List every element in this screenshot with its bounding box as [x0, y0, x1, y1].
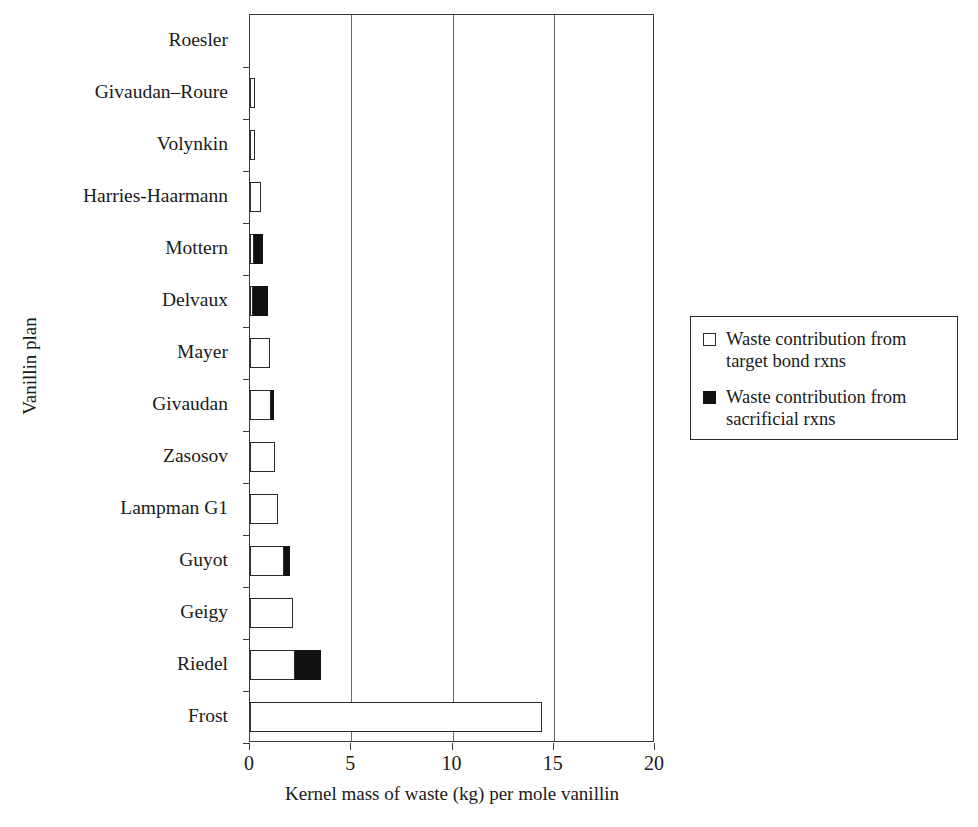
x-axis-tick-10 [452, 743, 453, 750]
gridline-x-15 [554, 15, 555, 741]
bar-segment-sacrificial [254, 234, 263, 264]
x-axis-tick-label-10: 10 [442, 752, 462, 775]
bar-segment-target-bond [250, 494, 278, 524]
y-axis-tick [243, 691, 250, 692]
y-axis-label-harries-haarmann: Harries-Haarmann [83, 186, 228, 206]
bar-segment-target-bond [250, 78, 255, 108]
x-axis-tick-label-0: 0 [244, 752, 254, 775]
y-axis-label-volynkin: Volynkin [157, 134, 228, 154]
y-axis-tick [243, 67, 250, 68]
x-axis-tick-label-15: 15 [543, 752, 563, 775]
y-axis-tick [243, 587, 250, 588]
y-axis-tick [243, 639, 250, 640]
bar-row [250, 182, 261, 212]
y-axis-label-zasosov: Zasosov [163, 446, 228, 466]
bar-segment-target-bond [250, 182, 261, 212]
plot-area [249, 14, 654, 742]
legend-swatch-filled-square-icon [703, 391, 716, 404]
x-axis-tick-20 [654, 743, 655, 750]
bar-segment-target-bond [250, 650, 295, 680]
chart-legend: Waste contribution from target bond rxns… [690, 316, 958, 440]
x-axis-tick-15 [553, 743, 554, 750]
legend-swatch-open-square-icon [703, 333, 716, 346]
bar-row [250, 442, 275, 472]
bar-segment-target-bond [250, 390, 271, 420]
gridline-x-5 [351, 15, 352, 741]
y-axis-label-frost: Frost [188, 706, 228, 726]
y-axis-tick [243, 379, 250, 380]
legend-item: Waste contribution from target bond rxns [703, 328, 947, 372]
x-axis-title: Kernel mass of waste (kg) per mole vanil… [249, 783, 655, 805]
y-axis-label-givaudan: Givaudan [152, 394, 228, 414]
y-axis-tick [243, 535, 250, 536]
x-axis-tick-label-20: 20 [644, 752, 664, 775]
bar-segment-target-bond [250, 702, 542, 732]
bar-segment-sacrificial [253, 286, 268, 316]
x-axis-tick-0 [249, 743, 250, 750]
y-axis-label-givaudan-roure: Givaudan–Roure [95, 82, 228, 102]
bar-row [250, 234, 263, 264]
y-axis-tick [243, 327, 250, 328]
y-axis-tick [243, 223, 250, 224]
bar-segment-target-bond [250, 546, 284, 576]
y-axis-tick [243, 483, 250, 484]
bar-segment-target-bond [250, 338, 270, 368]
y-axis-label-mayer: Mayer [177, 342, 228, 362]
bar-row [250, 390, 274, 420]
y-axis-label-lampman-g1: Lampman G1 [120, 498, 228, 518]
bar-row [250, 546, 290, 576]
bar-segment-sacrificial [284, 546, 290, 576]
y-axis-label-geigy: Geigy [180, 602, 228, 622]
bar-row [250, 338, 270, 368]
y-axis-label-riedel: Riedel [177, 654, 228, 674]
bar-segment-sacrificial [271, 390, 274, 420]
y-axis-tick [243, 275, 250, 276]
legend-label: Waste contribution from target bond rxns [726, 328, 947, 372]
legend-item: Waste contribution from sacrificial rxns [703, 386, 947, 430]
y-axis-label-roesler: Roesler [168, 30, 228, 50]
gridline-x-10 [453, 15, 454, 741]
y-axis-tick-labels: RoeslerGivaudan–RoureVolynkinHarries-Haa… [0, 14, 242, 742]
x-axis-ticks: 05101520 [249, 743, 655, 751]
y-axis-tick [243, 119, 250, 120]
y-axis-label-guyot: Guyot [179, 550, 228, 570]
x-axis-tick-label-5: 5 [345, 752, 355, 775]
bar-segment-target-bond [250, 130, 255, 160]
bar-row [250, 286, 268, 316]
y-axis-tick [243, 171, 250, 172]
bar-row [250, 130, 255, 160]
legend-label: Waste contribution from sacrificial rxns [726, 386, 947, 430]
bar-segment-sacrificial [295, 650, 321, 680]
x-axis-tick-5 [350, 743, 351, 750]
bar-segment-target-bond [250, 442, 275, 472]
y-axis-tick [243, 431, 250, 432]
bar-row [250, 702, 542, 732]
y-axis-label-mottern: Mottern [165, 238, 228, 258]
bar-row [250, 598, 293, 628]
bar-segment-target-bond [250, 598, 293, 628]
bar-row [250, 78, 255, 108]
y-axis-label-delvaux: Delvaux [162, 290, 228, 310]
bar-row [250, 650, 321, 680]
bar-row [250, 494, 278, 524]
